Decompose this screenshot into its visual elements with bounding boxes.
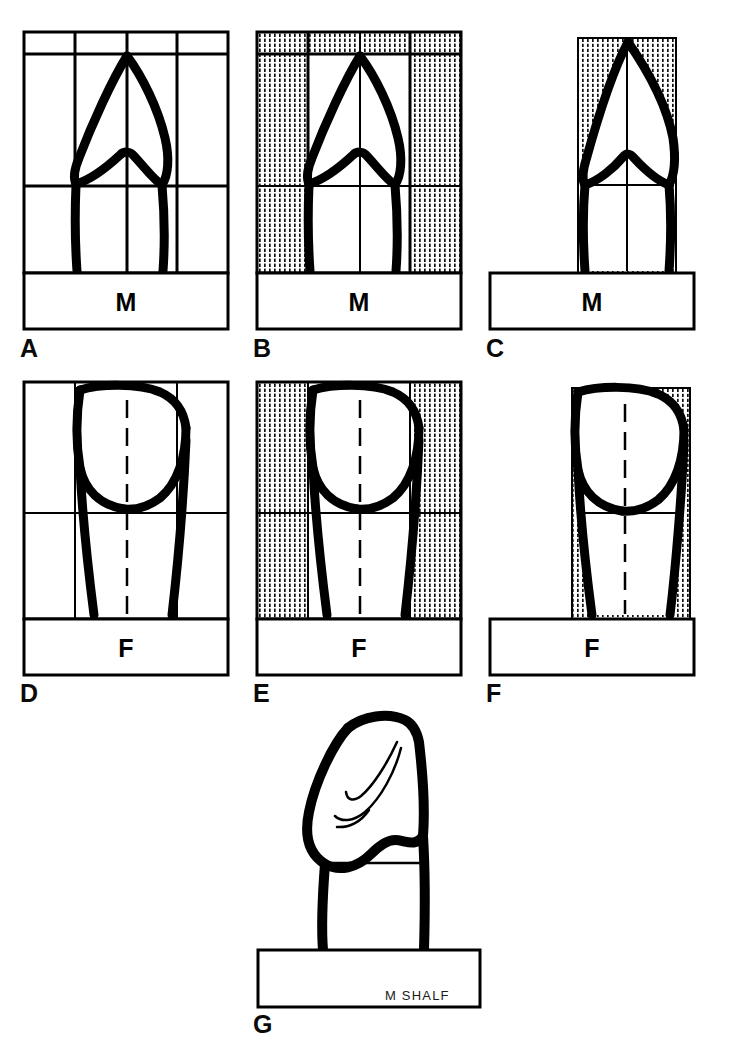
base-label-c: M (582, 288, 603, 316)
tooth-outline-a (74, 56, 168, 271)
panel-letter-c: C (486, 336, 504, 361)
base-box-a: M (24, 273, 228, 329)
panel-c-drawing: M (486, 28, 701, 333)
base-box-e: F (257, 619, 461, 675)
panel-g: G M SHALF (253, 700, 503, 1010)
panel-c: M C (486, 28, 701, 333)
panel-f-drawing: F (486, 378, 701, 678)
tooth-outline-g (307, 716, 425, 950)
base-box-d: F (24, 619, 228, 675)
base-box-b: M (257, 273, 461, 329)
panel-letter-a: A (20, 336, 38, 361)
figure-root: M A (0, 0, 740, 1045)
panel-letter-g: G (253, 1012, 272, 1037)
base-label-e: F (351, 634, 366, 662)
panel-a: M A (20, 28, 235, 333)
panel-b-drawing: M (253, 28, 468, 333)
artist-signature: M SHALF (385, 989, 450, 1003)
cusp-ridge-lines-g (335, 742, 401, 827)
tooth-outline-d (77, 385, 186, 615)
base-label-a: M (116, 288, 137, 316)
panel-g-drawing (253, 700, 503, 1010)
panel-a-drawing: M (20, 28, 235, 333)
panel-d-drawing: F (20, 378, 235, 678)
panel-e-drawing: F (253, 378, 468, 678)
panel-letter-b: B (253, 336, 271, 361)
panel-b: M B (253, 28, 468, 333)
base-label-d: F (118, 634, 133, 662)
panel-letter-d: D (20, 681, 38, 706)
base-label-f: F (584, 634, 599, 662)
base-box-c: M (490, 273, 694, 329)
panel-f: F F (486, 378, 701, 678)
panel-d: F D (20, 378, 235, 678)
base-label-b: M (349, 288, 370, 316)
tooth-outline-e (310, 385, 419, 615)
panel-e: F E (253, 378, 468, 678)
base-box-f: F (490, 619, 694, 675)
